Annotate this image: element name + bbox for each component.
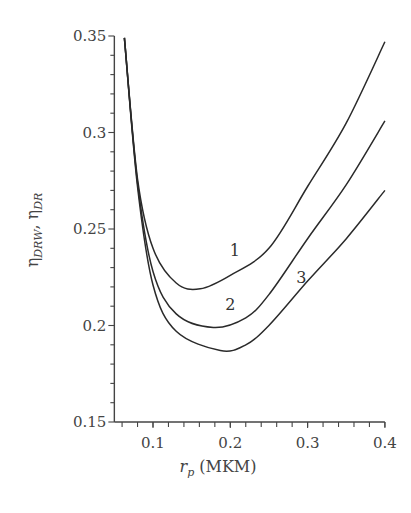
x-tick-label: 0.2 <box>218 434 242 452</box>
curve-label-2: 2 <box>225 295 235 314</box>
chart: 0.150.20.250.30.35 0.10.20.30.4 123 rp (… <box>0 0 411 513</box>
curve-2 <box>124 38 385 328</box>
curves <box>124 38 385 351</box>
y-tick-label: 0.35 <box>73 27 106 45</box>
y-tick-label: 0.25 <box>73 220 106 238</box>
x-tick-label: 0.4 <box>373 434 397 452</box>
y-tick-label: 0.2 <box>82 317 106 335</box>
y-tick-label: 0.3 <box>82 124 106 142</box>
y-axis: 0.150.20.250.30.35 <box>73 27 114 431</box>
y-tick-label: 0.15 <box>73 413 106 431</box>
curve-label-3: 3 <box>296 268 306 287</box>
curve-1 <box>124 38 385 290</box>
x-axis-title: rp (MKM) <box>180 457 257 479</box>
x-axis: 0.10.20.30.4 <box>114 422 396 452</box>
y-axis-title: ηDRW, ηDR <box>23 193 45 268</box>
curve-label-1: 1 <box>230 241 240 260</box>
x-tick-label: 0.1 <box>141 434 165 452</box>
curve-3 <box>124 38 385 351</box>
x-tick-label: 0.3 <box>296 434 320 452</box>
